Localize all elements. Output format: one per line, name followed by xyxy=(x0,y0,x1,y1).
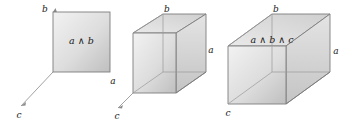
panel-cuboid-a-and-b-and-c: a ∧ b ∧ c b a c xyxy=(225,4,338,118)
axis-arrow-c-panel1 xyxy=(21,102,26,106)
cuboid-face-front xyxy=(228,46,286,104)
axis-label-b-panel1: b xyxy=(42,4,48,14)
label-c-part3: c xyxy=(288,34,294,45)
wedge-symbol-2: ∧ xyxy=(278,34,285,45)
axis-label-b-panel3: b xyxy=(273,4,279,14)
panel-cube: b a c xyxy=(114,4,213,121)
face-label-a-and-b: a ∧ b xyxy=(69,35,94,46)
axis-line-c-panel1 xyxy=(21,72,53,106)
wedge-symbol-1: ∧ xyxy=(259,34,266,45)
axis-label-a-panel1: a xyxy=(110,76,115,86)
cube-face-front xyxy=(133,33,176,93)
panel-square-a-and-b: a ∧ b b a c xyxy=(16,4,115,120)
logic-geometry-figure: a ∧ b b a c b a c xyxy=(0,0,346,123)
axis-line-c-panel2 xyxy=(118,93,133,108)
diagram-canvas: a ∧ b b a c b a c xyxy=(0,0,346,123)
axis-label-c-panel1: c xyxy=(16,110,21,120)
axis-label-c-panel2: c xyxy=(114,111,119,121)
axis-label-b-panel2: b xyxy=(164,4,170,14)
axis-label-a-panel2: a xyxy=(208,45,213,55)
label-b-part: b xyxy=(88,35,94,46)
face-label-a-and-b-and-c: a ∧ b ∧ c xyxy=(250,34,294,45)
axis-label-c-panel3: c xyxy=(225,108,230,118)
axis-label-a-panel3: a xyxy=(333,46,338,56)
wedge-symbol: ∧ xyxy=(78,35,85,46)
